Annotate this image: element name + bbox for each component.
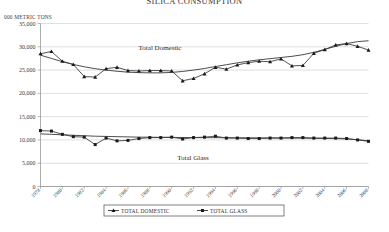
x-axis-tick-label: 1990 xyxy=(161,187,173,199)
chart-container: SILICA CONSUMPTION 000 METRIC TONS 05,00… xyxy=(0,0,389,232)
data-point-marker xyxy=(356,138,359,141)
data-point-marker xyxy=(214,135,217,138)
x-axis-tick-label: 1998 xyxy=(248,187,260,199)
data-point-marker xyxy=(148,136,151,139)
plot-background xyxy=(41,24,369,187)
data-point-marker xyxy=(181,137,184,140)
x-axis-tick-label: 1984 xyxy=(95,187,107,199)
data-point-marker xyxy=(236,137,239,140)
data-point-marker xyxy=(269,137,272,140)
x-axis-tick-label: 1978 xyxy=(30,187,42,199)
x-axis-tick-label: 1992 xyxy=(183,187,195,199)
data-point-marker xyxy=(116,139,119,142)
y-axis-tick-label: 10,000 xyxy=(19,137,36,143)
data-point-marker xyxy=(94,143,97,146)
data-point-marker xyxy=(137,137,140,140)
x-axis-tick-label: 1988 xyxy=(139,187,151,199)
data-point-marker xyxy=(323,137,326,140)
x-axis-tick-label: 2008 xyxy=(358,187,370,199)
chart-svg: 05,00010,00015,00020,00025,00030,00035,0… xyxy=(0,0,389,232)
data-point-marker xyxy=(203,136,206,139)
legend-item-total-glass-label: TOTAL GLASS xyxy=(210,208,248,214)
y-axis-tick-label: 35,000 xyxy=(19,21,36,27)
y-axis-tick-label: 5,000 xyxy=(22,160,36,166)
data-point-marker xyxy=(247,137,250,140)
x-axis-tick-label: 2006 xyxy=(336,187,348,199)
data-point-marker xyxy=(159,136,162,139)
legend-item-total-domestic-label: TOTAL DOMESTIC xyxy=(121,208,170,214)
data-point-marker xyxy=(126,139,129,142)
data-point-marker xyxy=(312,137,315,140)
data-point-marker xyxy=(301,136,304,139)
y-axis-tick-label: 30,000 xyxy=(19,44,36,50)
series-label-total-domestic: Total Domestic xyxy=(139,44,182,52)
data-point-marker xyxy=(345,137,348,140)
data-point-marker xyxy=(334,137,337,140)
data-point-marker xyxy=(61,133,64,136)
x-axis-tick-label: 1980 xyxy=(51,187,63,199)
y-axis-tick-label: 20,000 xyxy=(19,90,36,96)
data-point-marker xyxy=(290,136,293,139)
data-point-marker xyxy=(225,137,228,140)
data-point-marker xyxy=(367,140,370,143)
x-axis-tick-label: 1994 xyxy=(205,187,217,199)
data-point-marker xyxy=(170,136,173,139)
data-point-marker xyxy=(50,130,53,133)
series-label-total-glass: Total Glass xyxy=(177,154,209,162)
x-axis-tick-label: 1982 xyxy=(73,187,85,199)
data-point-marker xyxy=(192,136,195,139)
data-point-marker xyxy=(39,129,42,132)
data-point-marker xyxy=(105,137,108,140)
x-axis-tick-label: 2002 xyxy=(292,187,304,199)
data-point-marker xyxy=(72,135,75,138)
y-axis-tick-label: 25,000 xyxy=(19,67,36,73)
y-axis-tick-label: 15,000 xyxy=(19,114,36,120)
data-point-marker xyxy=(280,137,283,140)
plot-area: 05,00010,00015,00020,00025,00030,00035,0… xyxy=(0,0,389,232)
x-axis-tick-label: 1996 xyxy=(226,187,238,199)
x-axis-tick-label: 2004 xyxy=(314,187,326,199)
x-axis-tick-label: 1986 xyxy=(117,187,129,199)
data-point-marker xyxy=(83,136,86,139)
data-point-marker xyxy=(258,137,261,140)
legend-marker xyxy=(201,209,204,212)
x-axis-tick-label: 2000 xyxy=(270,187,282,199)
